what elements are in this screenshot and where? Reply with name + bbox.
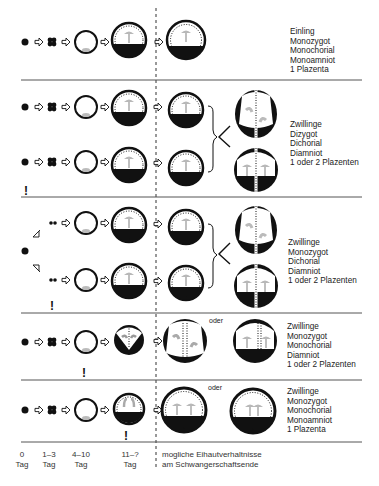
timeline-day-0: 0 Tag (14, 450, 30, 470)
row5-oder-label: oder (208, 384, 222, 391)
end-of-pregnancy-caption: mogliche Eihautverhaltnisse am Schwanger… (162, 450, 262, 470)
row5-sequence (22, 388, 276, 433)
warning-marker-row5: ! (124, 429, 128, 443)
row4-sequence (22, 319, 278, 363)
timeline-day-11: 11–? Tag (115, 450, 145, 470)
warning-marker-row2: ! (24, 184, 28, 198)
timeline-day-1-3: 1–3 Tag (38, 450, 60, 470)
row1-sequence (22, 21, 206, 59)
row3-sequence (22, 206, 279, 308)
row2-description: Zwillinge Dizygot Dichorial Diamniot 1 o… (290, 120, 359, 168)
row4-description: Zwillinge Monozygot Monochorial Diamniot… (287, 322, 356, 370)
row3-description: Zwillinge Monozygot Dichorial Diamniot 1… (288, 238, 357, 286)
row1-description: Einling Monozygot Monochorial Monoamniot… (290, 27, 335, 75)
timeline-day-4-10: 4–10 Tag (66, 450, 96, 470)
row4-oder-label: oder (209, 317, 223, 324)
row5-description: Zwillinge Monozygot Monochorial Monoamni… (287, 387, 332, 435)
warning-marker-row4: ! (82, 366, 86, 380)
warning-marker-row3: ! (50, 299, 54, 313)
row2-sequence (22, 90, 279, 192)
